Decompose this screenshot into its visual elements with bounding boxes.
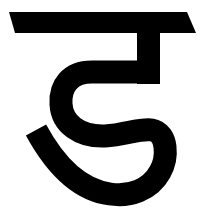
headline-bar <box>9 12 196 33</box>
devanagari-glyph <box>0 0 214 215</box>
vertical-stem <box>137 30 160 84</box>
s-curve-stroke <box>36 72 165 195</box>
